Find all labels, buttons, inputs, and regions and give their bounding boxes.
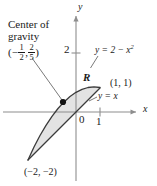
cg-y-fraction: 25 — [28, 43, 34, 62]
line-y-equals-x — [28, 88, 100, 160]
center-of-gravity-label-line2: gravity — [8, 30, 39, 42]
center-of-gravity-figure: Center of gravity (−12,25) 2 1 0 y x R y… — [0, 0, 157, 186]
cg-y-numerator: 2 — [28, 43, 34, 52]
parabola-equation-label: y = 2 − x2 — [95, 44, 134, 56]
x-axis-tick-label-1: 1 — [96, 116, 102, 128]
cg-x-denominator: 2 — [18, 52, 24, 62]
center-of-gravity-label: Center of gravity — [8, 19, 49, 42]
y-axis-tick-label-2: 2 — [64, 44, 70, 56]
cg-close-paren: ) — [35, 46, 39, 58]
cg-x-numerator: 1 — [18, 43, 24, 52]
point-label-minus2-minus2: (−2, −2) — [24, 167, 57, 178]
center-of-gravity-label-line1: Center of — [8, 18, 49, 30]
y-axis-label: y — [78, 2, 82, 13]
parabola-equation-text: y = 2 − x — [95, 45, 131, 55]
origin-label: 0 — [79, 114, 85, 126]
center-of-gravity-leader-line — [32, 58, 62, 100]
region-label-R: R — [83, 72, 90, 84]
parabola-equation-exponent: 2 — [131, 43, 134, 50]
x-axis-arrowhead — [131, 109, 137, 114]
parabola-label-leader-line — [91, 56, 99, 68]
cg-y-denominator: 5 — [28, 52, 34, 62]
y-axis-arrowhead — [73, 16, 78, 22]
cg-x-fraction: 12 — [18, 43, 24, 62]
line-equation-label: y = x — [98, 92, 118, 102]
center-of-gravity-dot — [60, 99, 66, 105]
center-of-gravity-coordinates: (−12,25) — [8, 43, 39, 62]
point-label-1-1: (1, 1) — [110, 78, 132, 89]
x-axis-label: x — [143, 104, 147, 115]
cg-open-paren: (− — [8, 46, 18, 58]
